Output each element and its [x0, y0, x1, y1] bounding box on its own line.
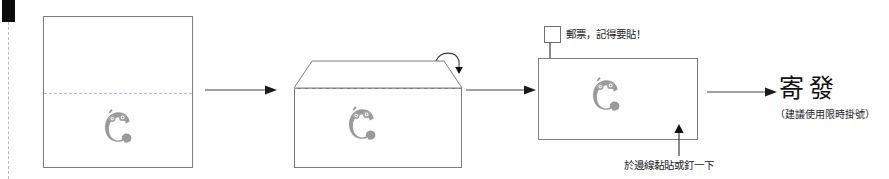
margin-dashed-line: [8, 22, 9, 179]
connector-arrow-1: [205, 84, 279, 96]
step-2-flap-and-fold-arrow: [286, 28, 486, 98]
stamp-note-label: 郵票，記得要貼！: [566, 27, 646, 42]
corner-registration-mark: [2, 0, 15, 22]
final-step-subtitle: （建議使用限時掛號）: [775, 108, 875, 122]
final-step-title: 寄發: [779, 75, 839, 103]
connector-arrow-2: [466, 84, 540, 96]
edge-seal-note-label: 於邊線黏貼或釘一下: [624, 158, 714, 172]
edge-seal-arrow-icon: [673, 122, 691, 158]
step-1-fold-line: [44, 93, 192, 94]
instruction-diagram-page: 郵票，記得要貼！ 於邊線黏貼或釘一下 寄發 （建議使用限時掛號: [0, 0, 889, 179]
brand-logo-icon: [99, 106, 137, 148]
brand-logo-icon: [343, 103, 381, 145]
brand-logo-icon: [587, 74, 625, 116]
connector-arrow-3: [707, 86, 781, 98]
stamp-placeholder-box: [544, 26, 561, 43]
